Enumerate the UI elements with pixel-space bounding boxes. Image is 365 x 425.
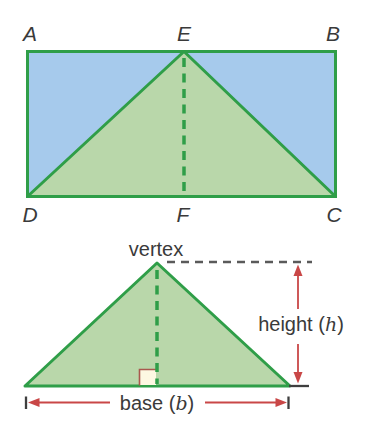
height-label: height (h): [258, 313, 344, 335]
base-arrowhead-right: [276, 398, 288, 407]
vertex-label: vertex: [129, 238, 183, 260]
geometry-figure: A E B D F C vertex: [0, 0, 365, 425]
diagram-svg: A E B D F C vertex: [0, 0, 365, 425]
base-variable: b: [175, 392, 187, 414]
point-label-d: D: [22, 203, 37, 226]
base-label-suffix: ): [188, 392, 195, 414]
base-label: base (b): [120, 392, 194, 414]
point-label-e: E: [177, 22, 192, 45]
point-label-a: A: [21, 22, 37, 45]
base-height-figure: vertex height (h) base (b): [25, 238, 344, 414]
height-variable: h: [325, 313, 337, 335]
point-label-b: B: [326, 22, 340, 45]
point-label-c: C: [326, 203, 342, 226]
rectangle-triangle-figure: A E B D F C: [21, 22, 342, 226]
right-angle-marker: [140, 370, 157, 386]
height-arrowhead-down: [294, 372, 303, 384]
base-label-prefix: base (: [120, 392, 176, 414]
height-label-suffix: ): [337, 313, 344, 335]
height-label-prefix: height (: [258, 313, 325, 335]
point-label-f: F: [177, 203, 191, 226]
base-arrowhead-left: [28, 398, 40, 407]
